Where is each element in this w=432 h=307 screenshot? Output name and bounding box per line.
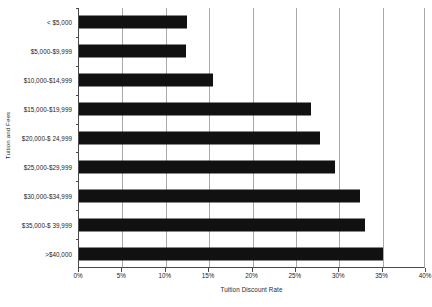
y-tick-label: $30,000-$34,999 xyxy=(10,192,72,199)
tuition-discount-rate-bar-chart: Tuition and Fees < $5,000$5,000-$9,999$1… xyxy=(0,0,432,307)
bar-row xyxy=(79,189,360,202)
y-axis-tick-labels: < $5,000$5,000-$9,999$10,000-$14,999$15,… xyxy=(14,8,76,268)
y-axis-tick xyxy=(76,239,79,240)
bar xyxy=(79,45,186,58)
bar xyxy=(79,218,365,231)
bar-row xyxy=(79,218,365,231)
y-axis-tick xyxy=(76,181,79,182)
bar xyxy=(79,103,311,116)
x-axis-tick-labels: 0%5%10%15%20%25%30%35%40% xyxy=(78,272,425,284)
bar-row xyxy=(79,132,320,145)
y-axis-tick xyxy=(76,124,79,125)
y-tick-label: $25,000-$29,999 xyxy=(10,163,72,170)
x-tick-label: 30% xyxy=(332,272,345,279)
bar-row xyxy=(79,160,335,173)
x-tick-label: 20% xyxy=(245,272,258,279)
bar xyxy=(79,160,335,173)
bar-row xyxy=(79,247,383,260)
y-tick-label: >$40,000 xyxy=(10,250,72,257)
bar xyxy=(79,132,320,145)
x-axis-title: Tuition Discount Rate xyxy=(78,286,425,293)
bar xyxy=(79,16,187,29)
gridline xyxy=(383,8,384,267)
bar xyxy=(79,189,360,202)
x-tick-label: 40% xyxy=(419,272,432,279)
x-tick-label: 0% xyxy=(73,272,82,279)
y-tick-label: $10,000-$14,999 xyxy=(10,77,72,84)
bar xyxy=(79,74,213,87)
x-tick-label: 35% xyxy=(375,272,388,279)
bar-row xyxy=(79,74,213,87)
x-tick-label: 10% xyxy=(158,272,171,279)
y-tick-label: $35,000-$ 39,999 xyxy=(10,221,72,228)
x-tick-label: 5% xyxy=(117,272,126,279)
plot-area xyxy=(78,8,425,268)
bar-row xyxy=(79,103,311,116)
y-axis-tick xyxy=(76,210,79,211)
y-axis-tick xyxy=(76,8,79,9)
y-axis-tick xyxy=(76,37,79,38)
bar-row xyxy=(79,45,186,58)
y-tick-label: < $5,000 xyxy=(10,19,72,26)
bar xyxy=(79,247,383,260)
x-tick-label: 15% xyxy=(202,272,215,279)
y-tick-label: $5,000-$9,999 xyxy=(10,48,72,55)
bar-row xyxy=(79,16,187,29)
y-axis-tick xyxy=(76,152,79,153)
y-axis-tick xyxy=(76,66,79,67)
y-tick-label: $15,000-$19,999 xyxy=(10,106,72,113)
x-tick-label: 25% xyxy=(289,272,302,279)
y-tick-label: $20,000-$ 24,999 xyxy=(10,135,72,142)
y-axis-tick xyxy=(76,95,79,96)
